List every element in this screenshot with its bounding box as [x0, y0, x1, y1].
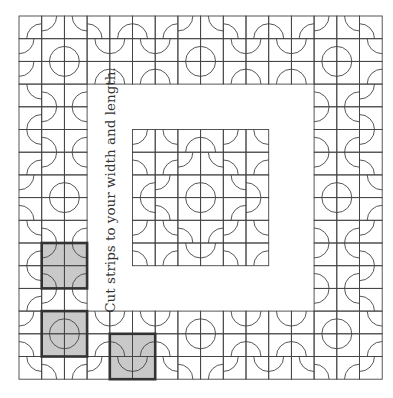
grid-cell [269, 39, 292, 62]
grid-cell [314, 16, 337, 39]
grid-cell [360, 334, 383, 357]
quarter-arc [201, 243, 216, 258]
grid-cell [178, 198, 201, 221]
grid-cell [314, 311, 337, 334]
grid-cell [314, 243, 337, 266]
quarter-arc [133, 251, 148, 266]
grid-cell [337, 220, 360, 243]
grid-cell [155, 16, 178, 39]
quarter-arc [27, 84, 42, 99]
grid-cell [133, 198, 156, 221]
grid-cell [246, 61, 269, 84]
quarter-arc [133, 160, 148, 175]
grid-cell [314, 198, 337, 221]
grid-cell [42, 357, 65, 380]
grid-cell [246, 220, 269, 243]
quarter-arc [322, 198, 337, 213]
grid-cell [19, 334, 42, 357]
grid-cell [155, 61, 178, 84]
quarter-arc [19, 205, 34, 220]
quarter-arc [186, 183, 201, 198]
grid-cell [87, 39, 110, 62]
quarter-arc [337, 319, 352, 334]
grid-cell [291, 311, 314, 334]
grid-cell [42, 107, 65, 130]
grid-cell [246, 175, 269, 198]
grid-cell [64, 84, 87, 107]
grid-cell [19, 288, 42, 311]
grid-cell [19, 311, 42, 334]
quarter-arc [42, 228, 57, 243]
grid-cell [201, 152, 224, 175]
quarter-arc [140, 69, 155, 84]
quarter-arc [246, 311, 261, 326]
grid-cell [155, 243, 178, 266]
grid-cell [64, 130, 87, 153]
quarter-arc [291, 342, 306, 357]
quarter-arc [254, 220, 269, 235]
grid-cell [42, 198, 65, 221]
quarter-arc [269, 24, 284, 39]
quarter-arc [178, 152, 193, 167]
grid-cell [337, 357, 360, 380]
grid-cell [269, 357, 292, 380]
quarter-arc [254, 24, 269, 39]
quarter-arc [322, 61, 337, 76]
quarter-arc [345, 152, 360, 167]
grid-cell [337, 84, 360, 107]
quarter-arc [254, 357, 269, 372]
quarter-arc [42, 137, 57, 152]
quarter-arc [163, 130, 178, 145]
grid-cell [223, 334, 246, 357]
quarter-arc [367, 205, 382, 220]
quarter-arc [110, 39, 125, 54]
grid-cell [246, 152, 269, 175]
quarter-arc [345, 288, 360, 303]
grid-cell [360, 198, 383, 221]
grid-cell [314, 107, 337, 130]
grid-cell [178, 175, 201, 198]
quarter-arc [72, 152, 87, 167]
quarter-arc [208, 152, 223, 167]
quarter-arc [27, 220, 42, 235]
grid-cell [314, 357, 337, 380]
grid-cell [337, 175, 360, 198]
quarter-arc [299, 24, 314, 39]
quarter-arc [72, 92, 87, 107]
quarter-arc [208, 16, 223, 31]
grid-cell [42, 84, 65, 107]
grid-cell [87, 334, 110, 357]
grid-cell [155, 130, 178, 153]
quarter-arc [322, 319, 337, 334]
quarter-arc [155, 205, 170, 220]
quarter-arc [19, 39, 34, 54]
quarter-arc [178, 364, 193, 379]
quarter-arc [49, 183, 64, 198]
quarter-arc [19, 311, 34, 326]
quarter-arc [27, 266, 42, 281]
quarter-arc [133, 130, 148, 145]
grid-cell [155, 357, 178, 380]
quarter-arc [27, 160, 42, 175]
grid-cell [19, 357, 42, 380]
quarter-arc [186, 334, 201, 349]
grid-cell [19, 198, 42, 221]
grid-cell [110, 39, 133, 62]
grid-cell [360, 39, 383, 62]
quarter-arc [186, 243, 201, 258]
quarter-arc [186, 137, 201, 152]
quarter-arc [49, 61, 64, 76]
quarter-arc [72, 288, 87, 303]
quarter-arc [42, 107, 57, 122]
grid-cell [178, 311, 201, 334]
grid-cell [19, 39, 42, 62]
grid-cell [201, 130, 224, 153]
quarter-arc [314, 288, 329, 303]
grid-cell [337, 334, 360, 357]
quarter-arc [178, 228, 193, 243]
grid-cell [133, 16, 156, 39]
quarter-arc [231, 69, 246, 84]
grid-cell [246, 357, 269, 380]
grid-cell [64, 288, 87, 311]
quarter-arc [291, 69, 306, 84]
